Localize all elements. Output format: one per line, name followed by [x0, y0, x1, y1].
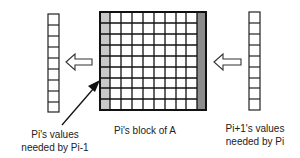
block-grid: [100, 12, 206, 110]
right-hollow-arrow: [214, 54, 241, 70]
right-label-line2: needed by Pi: [215, 135, 295, 148]
pointer-arrow: [62, 80, 100, 125]
left-hollow-arrow: [66, 54, 92, 70]
left-label-line1: Pi's values: [15, 128, 95, 141]
right-column: [249, 12, 260, 110]
center-label: Pi's block of A: [105, 124, 185, 137]
left-label: Pi's values needed by Pi-1: [15, 128, 95, 154]
left-column: [48, 14, 59, 112]
right-label-line1: Pi+1's values: [215, 122, 295, 135]
left-label-line2: needed by Pi-1: [15, 141, 95, 154]
right-label: Pi+1's values needed by Pi: [215, 122, 295, 148]
